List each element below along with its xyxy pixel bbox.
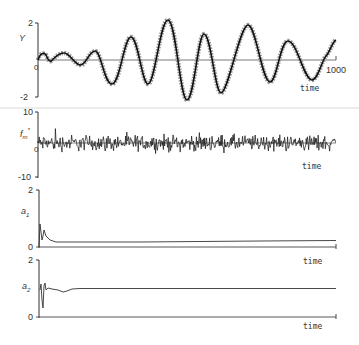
figure: 2 0 -2 Y 1000 time 10 0 -10 fm* time 2 0 — [0, 0, 359, 345]
panel-fm: 10 0 -10 fm* time — [18, 107, 336, 182]
fm-tick-label-top: 10 — [23, 107, 33, 117]
fm-x-axis-label: time — [302, 162, 321, 171]
x-end-label: 1000 — [326, 65, 346, 75]
y-tick-label-zero: 0 — [34, 63, 39, 72]
a2-trace — [40, 283, 336, 308]
panel-a2: 2 0 a2 time — [22, 255, 336, 331]
a1-tick-label-zero: 0 — [28, 242, 33, 252]
a1-tick-label-top: 2 — [28, 185, 33, 195]
a2-tick-label-zero: 0 — [28, 312, 33, 322]
a2-tick-label-top: 2 — [28, 255, 33, 265]
panel-y: 2 0 -2 Y 1000 time — [19, 18, 346, 102]
a2-axis-label: a2 — [22, 281, 31, 293]
y-tick-label-bottom: -2 — [20, 92, 28, 102]
a1-trace — [39, 224, 336, 247]
fm-noise-trace — [38, 129, 336, 154]
y-axis-label: Y — [19, 33, 26, 43]
fm-axis-label: fm* — [20, 127, 31, 140]
fm-tick-label-bottom: -10 — [18, 172, 31, 182]
x-axis-label: time — [300, 84, 319, 93]
a2-x-axis-label: time — [303, 322, 322, 331]
a1-x-axis-label: time — [303, 257, 322, 266]
a1-label-sub: 1 — [26, 212, 29, 218]
a1-axis-label: a1 — [21, 206, 29, 218]
fm-label-sup: * — [28, 127, 31, 133]
fm-label-sub: m — [23, 134, 28, 140]
panel-a1: 2 0 a1 time — [21, 185, 336, 266]
fm-tick-label-zero: 0 — [34, 145, 39, 154]
a2-label-sub: 2 — [26, 287, 31, 293]
y-tick-label-top: 2 — [28, 18, 33, 28]
